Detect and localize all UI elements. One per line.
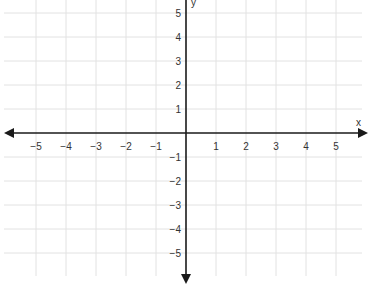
coordinate-plane: −5−4−3−2−112345 54321−1−2−3−4−5 x y	[0, 0, 372, 288]
grid	[4, 0, 362, 276]
x-tick-label: −2	[120, 141, 132, 152]
x-tick-label: −1	[150, 141, 162, 152]
x-tick-label: 1	[213, 141, 219, 152]
y-tick-label: 5	[175, 8, 181, 19]
y-tick-label: 2	[175, 80, 181, 91]
x-tick-label: −5	[30, 141, 42, 152]
y-tick-label: −4	[170, 224, 182, 235]
y-tick-label: 1	[175, 104, 181, 115]
y-tick-label: −2	[170, 176, 182, 187]
y-tick-label: −1	[170, 152, 182, 163]
x-tick-label: 4	[303, 141, 309, 152]
x-axis-right-arrow-icon	[358, 128, 368, 138]
y-axis-label: y	[191, 0, 196, 8]
y-tick-label: 4	[175, 32, 181, 43]
x-tick-label: −4	[60, 141, 72, 152]
x-tick-label: 2	[243, 141, 249, 152]
x-axis-label: x	[356, 117, 361, 128]
x-tick-label: 3	[273, 141, 279, 152]
x-tick-label: 5	[333, 141, 339, 152]
y-tick-label: 3	[175, 56, 181, 67]
y-axis-down-arrow-icon	[181, 274, 191, 284]
x-axis-left-arrow-icon	[4, 128, 14, 138]
x-tick-labels: −5−4−3−2−112345	[30, 141, 339, 152]
y-tick-label: −3	[170, 200, 182, 211]
y-tick-label: −5	[170, 248, 182, 259]
x-tick-label: −3	[90, 141, 102, 152]
